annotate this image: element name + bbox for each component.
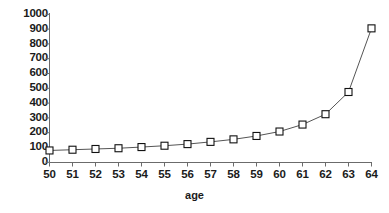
data-point-marker — [69, 146, 76, 153]
data-point-marker — [46, 147, 53, 154]
data-point-marker — [345, 89, 352, 96]
x-axis-ticks — [50, 163, 372, 167]
line-chart: 1000 900 800 700 600 500 400 300 200 100… — [0, 0, 389, 213]
data-point-marker — [92, 145, 99, 152]
data-point-marker — [299, 121, 306, 128]
data-series-markers — [46, 25, 375, 154]
x-axis-tick-label: 64 — [359, 168, 385, 180]
data-point-marker — [322, 111, 329, 118]
data-point-marker — [368, 25, 375, 32]
data-point-marker — [276, 128, 283, 135]
data-point-marker — [230, 136, 237, 143]
x-axis-title: age — [0, 189, 389, 201]
data-series-line — [50, 28, 372, 150]
data-point-marker — [161, 142, 168, 149]
data-point-marker — [207, 138, 214, 145]
data-point-marker — [115, 145, 122, 152]
data-point-marker — [138, 144, 145, 151]
data-point-marker — [184, 141, 191, 148]
plot-area — [0, 0, 389, 213]
y-axis-ticks — [46, 14, 50, 162]
data-point-marker — [253, 132, 260, 139]
